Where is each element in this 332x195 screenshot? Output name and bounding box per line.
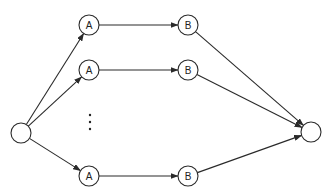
node-b-1: B (178, 60, 198, 80)
edge-b-to-sink-1 (197, 75, 302, 128)
ellipsis-dot (89, 114, 91, 116)
edges (26, 25, 303, 176)
vertical-ellipsis (89, 114, 91, 130)
edge-b-to-sink-2 (197, 135, 301, 172)
edge-source-to-a-0 (26, 33, 83, 124)
parallel-paths-diagram: ABABAB (0, 0, 332, 195)
ellipsis-dot (89, 128, 91, 130)
node-a-0: A (79, 15, 99, 35)
node-a-1-label: A (86, 65, 93, 76)
node-a-2: A (79, 166, 99, 186)
edge-source-to-a-1 (28, 77, 81, 126)
node-a-0-label: A (86, 20, 93, 31)
edge-b-to-sink-0 (196, 32, 304, 126)
node-b-2: B (178, 166, 198, 186)
node-b-2-label: B (185, 171, 192, 182)
node-a-1: A (79, 60, 99, 80)
source-node-circle (11, 123, 31, 143)
edge-source-to-a-2 (29, 138, 80, 170)
node-b-1-label: B (185, 65, 192, 76)
sink-node (301, 122, 321, 142)
source-node (11, 123, 31, 143)
node-b-0: B (178, 15, 198, 35)
ellipsis-dot (89, 121, 91, 123)
node-a-2-label: A (86, 171, 93, 182)
sink-node-circle (301, 122, 321, 142)
node-b-0-label: B (185, 20, 192, 31)
